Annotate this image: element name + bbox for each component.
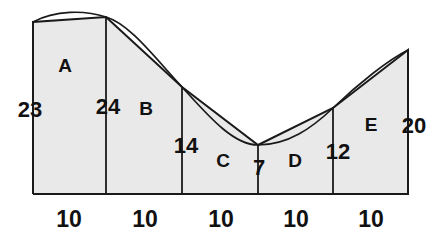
ordinate-value-23: 23 bbox=[18, 97, 42, 122]
ordinate-value-24: 24 bbox=[96, 94, 121, 119]
ordinate-value-12: 12 bbox=[326, 139, 350, 164]
region-label-e: E bbox=[365, 114, 378, 135]
figure-container: A B C D E 23 24 14 7 12 20 10 10 10 10 1… bbox=[0, 0, 429, 239]
region-label-c: C bbox=[216, 150, 230, 171]
width-label-3: 10 bbox=[283, 206, 309, 232]
width-label-4: 10 bbox=[358, 206, 384, 232]
ordinate-value-14: 14 bbox=[174, 133, 199, 158]
region-label-a: A bbox=[58, 55, 72, 76]
trapezoidal-strips-figure: A B C D E 23 24 14 7 12 20 10 10 10 10 1… bbox=[0, 0, 429, 239]
width-label-2: 10 bbox=[208, 206, 234, 232]
ordinate-value-7: 7 bbox=[253, 155, 265, 180]
width-label-0: 10 bbox=[56, 206, 82, 232]
ordinate-value-20: 20 bbox=[402, 113, 426, 138]
region-label-b: B bbox=[139, 98, 153, 119]
width-label-1: 10 bbox=[132, 206, 158, 232]
region-label-d: D bbox=[288, 150, 302, 171]
